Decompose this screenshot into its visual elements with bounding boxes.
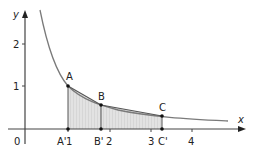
x-tick-label-4: 4 [188, 136, 194, 147]
point-a-foot [66, 127, 70, 131]
x-tick-label-3: 3 [148, 136, 154, 147]
origin-label: 0 [14, 136, 20, 147]
point-b [99, 103, 103, 107]
y-tick-label-1: 1 [13, 81, 19, 92]
point-b-foot [99, 127, 103, 131]
y-axis-label: y [12, 9, 20, 20]
point-a [66, 84, 70, 88]
point-c-foot [160, 127, 164, 131]
x-tick-label-1: 1 [66, 136, 72, 147]
foot-label-c: C' [158, 136, 168, 147]
x-axis-label: x [237, 114, 244, 125]
x-axis-arrow-icon [238, 126, 246, 132]
foot-label-b: B' [94, 136, 104, 147]
point-label-b: B [98, 91, 105, 102]
point-c [160, 114, 164, 118]
y-tick-label-2: 2 [13, 39, 19, 50]
point-label-c: C [159, 102, 166, 113]
point-label-a: A [66, 71, 73, 82]
area-diagram: y x 0 2 1 A' 1 B' 2 3 C' 4 A B C [0, 0, 255, 154]
y-axis-arrow-icon [22, 10, 28, 18]
x-tick-label-2: 2 [106, 136, 112, 147]
